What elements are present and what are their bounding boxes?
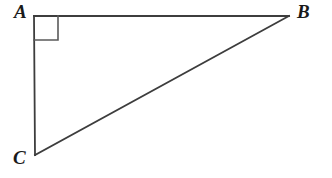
geometry-figure: A B C	[0, 0, 332, 178]
figure-background	[0, 0, 332, 178]
vertex-label-c: C	[13, 148, 26, 167]
vertex-label-b: B	[297, 2, 310, 21]
vertex-label-a: A	[14, 2, 27, 21]
edge-ac-leg	[34, 16, 35, 155]
triangle-diagram-canvas	[0, 0, 332, 178]
